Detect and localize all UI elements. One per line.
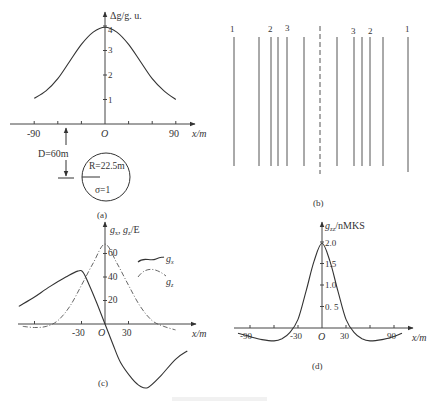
panel-b: 1 2 3 3 2 1 (b) bbox=[230, 23, 410, 208]
panel-a-tick-90: 90 bbox=[169, 128, 179, 139]
panel-d-ytick-0.5: 0. 5 bbox=[325, 302, 339, 312]
panel-d-x-label: x/m bbox=[411, 332, 426, 343]
figure-canvas: Δg/g. u. x/m -90 O 90 1 2 3 4 D=60m R=22… bbox=[0, 0, 439, 404]
faint-caption bbox=[172, 397, 267, 401]
legend-gx-swatch bbox=[138, 257, 164, 262]
panel-c-legend: gx gz bbox=[138, 253, 174, 288]
panel-a-ytick-2: 2 bbox=[108, 70, 113, 80]
panel-d-tick-30: 30 bbox=[340, 331, 350, 341]
panel-a-origin: O bbox=[101, 128, 108, 139]
panel-d-y-label: gzz/nMKS bbox=[325, 220, 365, 232]
panel-c-tick-neg30: -30 bbox=[72, 328, 85, 338]
panel-b-label-right-1: 1 bbox=[405, 24, 410, 34]
panel-d-tick-neg30: -30 bbox=[290, 331, 302, 341]
panel-a: Δg/g. u. x/m -90 O 90 1 2 3 4 D=60m R=22… bbox=[10, 10, 206, 220]
panel-c-x-label: x/m bbox=[191, 328, 206, 339]
panel-d-ytick-1.5: 1.5 bbox=[325, 259, 337, 269]
radius-label: R=22.5m bbox=[89, 161, 125, 171]
panel-b-label-right-3: 3 bbox=[351, 26, 356, 36]
panel-c: gx, gz/E x/m -30 O 30 20 40 60 gx gz (c) bbox=[18, 222, 206, 388]
legend-gx-label: gx bbox=[166, 253, 174, 265]
panel-d-origin: O bbox=[318, 331, 325, 342]
panel-a-x-label: x/m bbox=[191, 128, 206, 139]
panel-a-caption: (a) bbox=[97, 210, 107, 220]
panel-d-tick-neg90: -90 bbox=[240, 331, 252, 341]
panel-b-caption: (b) bbox=[313, 198, 324, 208]
panel-a-y-label: Δg/g. u. bbox=[110, 10, 142, 21]
panel-a-tick-neg90: -90 bbox=[27, 128, 40, 139]
panel-c-ytick-60: 60 bbox=[108, 248, 118, 258]
legend-gz-label: gz bbox=[166, 276, 174, 288]
panel-a-ytick-3: 3 bbox=[108, 45, 113, 55]
panel-a-ytick-1: 1 bbox=[108, 95, 113, 105]
panel-c-caption: (c) bbox=[98, 378, 108, 388]
panel-b-label-left-3: 3 bbox=[285, 23, 290, 33]
panel-b-label-left-1: 1 bbox=[230, 24, 235, 34]
panel-d-gzz-curve bbox=[238, 243, 402, 341]
panel-d-ytick-1.0: 1.0 bbox=[325, 280, 337, 290]
panel-d-ytick-2.0: 2.0 bbox=[325, 238, 337, 248]
panel-b-lines bbox=[234, 26, 408, 174]
panel-c-tick-30: 30 bbox=[122, 328, 132, 338]
panel-c-ytick-40: 40 bbox=[108, 272, 118, 282]
panel-d-caption: (d) bbox=[312, 361, 323, 371]
panel-a-ytick-4: 4 bbox=[108, 25, 113, 35]
panel-d: gzz/nMKS x/m -90 -30 O 30 90 0. 5 1.0 1.… bbox=[234, 220, 426, 371]
legend-gz-swatch bbox=[138, 269, 166, 277]
panel-d-tick-90: 90 bbox=[387, 331, 397, 341]
panel-c-y-label: gx, gz/E bbox=[110, 224, 140, 236]
density-label: σ=1 bbox=[95, 185, 110, 195]
panel-c-origin: O bbox=[98, 327, 105, 338]
depth-label: D=60m bbox=[38, 148, 69, 159]
panel-c-gz-curve bbox=[23, 244, 176, 330]
panel-b-label-left-2: 2 bbox=[268, 24, 273, 34]
panel-c-ytick-20: 20 bbox=[108, 295, 118, 305]
panel-b-label-right-2: 2 bbox=[368, 26, 373, 36]
